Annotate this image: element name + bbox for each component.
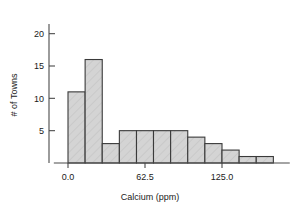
x-axis-tick-label: 125.0	[211, 172, 234, 182]
x-axis-tick-label: 62.5	[136, 172, 154, 182]
histogram-bar	[137, 131, 154, 163]
y-axis-tick-label: 10	[34, 94, 44, 104]
histogram-bar	[188, 137, 205, 163]
histogram-figure: 0.062.5125.05101520 Calcium (ppm) # of T…	[0, 0, 294, 208]
histogram-bar	[171, 131, 188, 163]
histogram-bar	[154, 131, 171, 163]
y-axis-tick-label: 20	[34, 29, 44, 39]
y-axis-title: # of Towns	[9, 73, 19, 116]
x-axis-tick-label: 0.0	[62, 172, 75, 182]
bars-layer	[68, 60, 273, 163]
histogram-bar	[205, 144, 222, 163]
y-axis-tick-label: 5	[39, 126, 44, 136]
histogram-bar	[256, 157, 273, 163]
histogram-bar	[85, 60, 102, 163]
histogram-bar	[119, 131, 136, 163]
histogram-bar	[239, 157, 256, 163]
histogram-bar	[68, 92, 85, 163]
x-axis-title: Calcium (ppm)	[121, 192, 180, 202]
histogram-bar	[222, 150, 239, 163]
y-axis-tick-label: 15	[34, 61, 44, 71]
histogram-plot: 0.062.5125.05101520 Calcium (ppm) # of T…	[0, 0, 294, 208]
histogram-bar	[102, 144, 119, 163]
